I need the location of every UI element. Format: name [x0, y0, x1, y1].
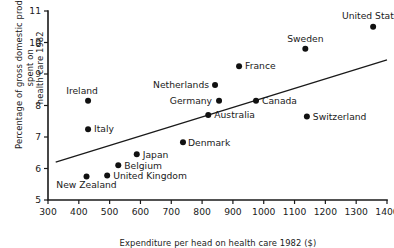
- x-tick-label: 900: [224, 206, 242, 217]
- y-tick-label: 5: [35, 194, 41, 205]
- x-axis-ticks: 3004005006007008009001000110012001300140…: [39, 200, 394, 217]
- data-point-label: New Zealand: [56, 179, 116, 190]
- data-point-label: United Kingdom: [113, 170, 187, 181]
- x-tick-label: 700: [162, 206, 180, 217]
- data-point-label: Belgium: [124, 160, 162, 171]
- data-point: [302, 46, 308, 52]
- x-tick-label: 500: [101, 206, 119, 217]
- data-point: [304, 114, 310, 120]
- data-point-label: United States: [342, 10, 394, 21]
- data-point: [253, 98, 259, 104]
- data-point-label: Canada: [262, 95, 297, 106]
- data-point-label: Sweden: [287, 33, 323, 44]
- data-point-label: Germany: [170, 95, 213, 106]
- x-tick-label: 800: [193, 206, 211, 217]
- data-point-label: Netherlands: [153, 79, 209, 90]
- data-point-label: France: [245, 60, 276, 71]
- x-tick-label: 1200: [314, 206, 338, 217]
- data-points: IrelandItalyNew ZealandUnited KingdomBel…: [56, 10, 394, 191]
- axes: [48, 11, 387, 200]
- data-point: [205, 112, 211, 118]
- axis-lines: [48, 11, 387, 200]
- x-axis-title: Expenditure per head on health care 1982…: [48, 238, 388, 248]
- y-axis-title-line2: health care 1982: [35, 0, 46, 160]
- scatter-chart: 567891011 300400500600700800900100011001…: [0, 0, 394, 248]
- data-point-label: Switzerland: [313, 111, 367, 122]
- x-tick-label: 1000: [252, 206, 276, 217]
- data-point: [370, 24, 376, 30]
- data-point: [85, 98, 91, 104]
- x-tick-label: 400: [70, 206, 88, 217]
- x-tick-label: 1300: [344, 206, 368, 217]
- y-axis-title-line1: Percentage of gross domestic product spe…: [14, 0, 35, 149]
- data-point: [115, 162, 121, 168]
- data-point-label: Japan: [142, 149, 169, 160]
- data-point-label: Italy: [94, 123, 114, 134]
- data-point-label: Denmark: [188, 137, 231, 148]
- y-tick-label: 6: [35, 163, 41, 174]
- x-tick-label: 300: [39, 206, 57, 217]
- data-point: [212, 82, 218, 88]
- x-tick-label: 600: [132, 206, 150, 217]
- data-point: [85, 126, 91, 132]
- x-tick-label: 1400: [375, 206, 394, 217]
- data-point-label: Australia: [214, 109, 255, 120]
- x-tick-label: 1100: [283, 206, 307, 217]
- data-point: [104, 172, 110, 178]
- data-point: [180, 139, 186, 145]
- plot-area: 567891011 300400500600700800900100011001…: [0, 0, 394, 248]
- data-point: [134, 151, 140, 157]
- data-point-label: Ireland: [66, 85, 98, 96]
- data-point: [236, 63, 242, 69]
- data-point: [216, 98, 222, 104]
- y-axis-title: Percentage of gross domestic product spe…: [14, 0, 46, 160]
